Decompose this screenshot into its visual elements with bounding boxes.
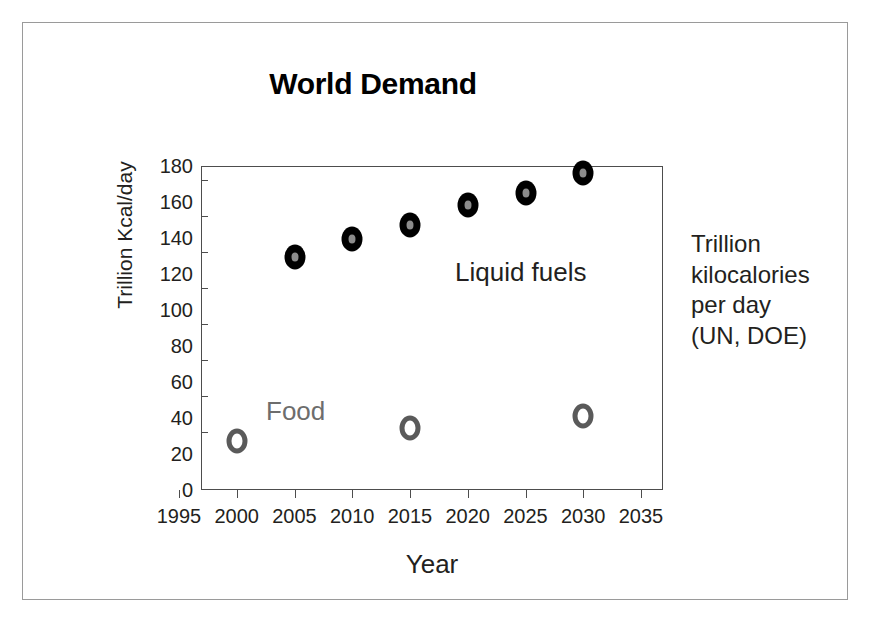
y-tick-label: 160 (145, 192, 193, 212)
units-annotation: Trillion kilocalories per day (UN, DOE) (691, 229, 810, 352)
y-tick-mark (201, 288, 208, 289)
x-tick-mark (526, 490, 527, 498)
page-title: World Demand (23, 67, 723, 101)
y-tick-label: 40 (145, 408, 193, 428)
y-tick-mark (201, 432, 208, 433)
data-point-center (522, 188, 529, 197)
y-tick-mark (201, 180, 208, 181)
units-annotation-line-1: Trillion (691, 229, 810, 260)
data-point-center (407, 221, 414, 230)
data-point-food (400, 416, 421, 441)
units-annotation-line-3: per day (691, 290, 810, 321)
x-tick-mark (237, 490, 238, 498)
y-tick-mark (201, 216, 208, 217)
x-tick-mark (352, 490, 353, 498)
x-tick-label: 2035 (606, 505, 676, 528)
y-tick-mark (201, 252, 208, 253)
data-point-food (573, 403, 594, 428)
x-tick-mark (179, 490, 180, 498)
x-tick-mark (583, 490, 584, 498)
y-tick-label: 20 (145, 444, 193, 464)
y-tick-label: 120 (145, 264, 193, 284)
y-tick-label: 140 (145, 228, 193, 248)
data-point-liquid-fuels (284, 245, 305, 270)
units-annotation-line-4: (UN, DOE) (691, 321, 810, 352)
y-tick-label: 100 (145, 300, 193, 320)
y-tick-label: 80 (145, 336, 193, 356)
y-tick-mark (201, 360, 208, 361)
series-label-food: Food (266, 396, 325, 427)
y-tick-label: 60 (145, 372, 193, 392)
series-label-liquid-fuels: Liquid fuels (455, 257, 587, 288)
x-tick-mark (295, 490, 296, 498)
data-point-liquid-fuels (515, 180, 536, 205)
y-tick-mark (201, 324, 208, 325)
data-point-center (291, 253, 298, 262)
data-point-liquid-fuels (573, 160, 594, 185)
x-axis-title: Year (201, 549, 663, 580)
data-point-center (580, 168, 587, 177)
y-tick-label: 180 (145, 156, 193, 176)
x-tick-mark (641, 490, 642, 498)
y-tick-label: 0 (145, 480, 193, 500)
data-point-liquid-fuels (342, 227, 363, 252)
data-point-liquid-fuels (457, 193, 478, 218)
y-axis-title: Trillion Kcal/day (113, 125, 137, 345)
plot-area (201, 166, 663, 490)
x-tick-mark (410, 490, 411, 498)
data-point-center (464, 201, 471, 210)
y-axis-tick-labels: 020406080100120140160180 (141, 166, 193, 490)
units-annotation-line-2: kilocalories (691, 260, 810, 291)
figure-frame: World Demand Trillion Kcal/day 020406080… (22, 22, 848, 600)
x-tick-mark (468, 490, 469, 498)
data-point-food (226, 429, 247, 454)
chart-page: World Demand Trillion Kcal/day 020406080… (0, 0, 871, 623)
y-tick-mark (201, 396, 208, 397)
data-point-center (349, 235, 356, 244)
data-point-liquid-fuels (400, 213, 421, 238)
